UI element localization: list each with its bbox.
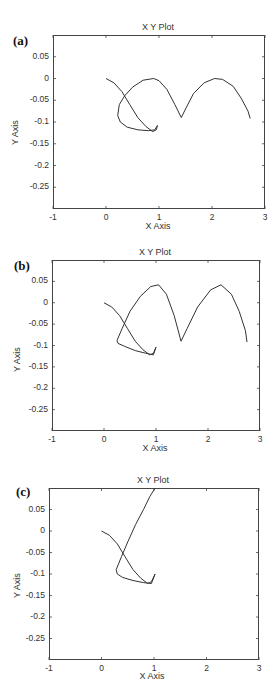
data-series-line <box>102 488 156 584</box>
plot-svg <box>0 0 276 698</box>
